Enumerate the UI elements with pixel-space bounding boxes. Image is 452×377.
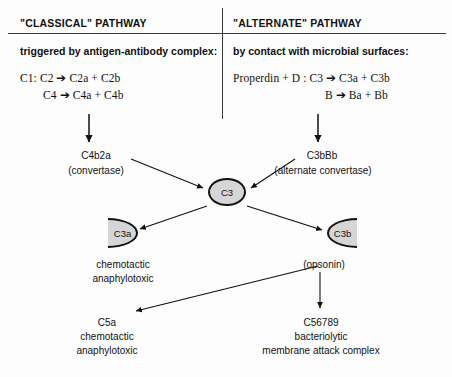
- c5a-caption-chemotactic: chemotactic: [66, 331, 148, 344]
- c3-node: C3: [208, 178, 246, 206]
- header-underline: [8, 33, 446, 34]
- classical-pathway-title: "CLASSICAL" PATHWAY: [20, 17, 147, 30]
- classical-equation-2: C4 ➔ C4a + C4b: [43, 88, 124, 102]
- mac-label: C56789: [295, 317, 347, 330]
- c3b-caption-opsonin: (opsonin): [296, 259, 352, 272]
- arrow-c3-to-c3b: [247, 206, 322, 230]
- mac-caption-bacteriolytic: bacteriolytic: [288, 331, 354, 344]
- c5a-label: C5a: [90, 317, 124, 330]
- classical-convertase-label: C4b2a: [68, 150, 124, 163]
- c3a-caption-anaphylotoxic: anaphylotoxic: [78, 273, 168, 286]
- alternate-trigger-text: by contact with microbial surfaces:: [233, 45, 409, 58]
- classical-trigger-text: triggered by antigen-antibody complex:: [20, 45, 217, 58]
- mac-caption-membrane-attack-complex: membrane attack complex: [258, 345, 384, 358]
- c3a-node: C3a: [108, 218, 138, 248]
- alternate-convertase-label: C3bBb: [296, 150, 348, 163]
- alternate-equation-2: B ➔ Ba + Bb: [325, 88, 388, 102]
- arrow-c3-to-c3a: [140, 206, 207, 229]
- arrow-classical-convertase-to-c3: [131, 159, 203, 188]
- c3b-node-label: C3b: [329, 228, 356, 239]
- c3-node-label: C3: [221, 187, 233, 198]
- alternate-equation-1: Properdin + D : C3 ➔ C3a + C3b: [233, 71, 390, 85]
- alternate-convertase-sublabel: (alternate convertase): [268, 165, 378, 178]
- c3b-node: C3b: [327, 218, 357, 248]
- classical-equation-1: C1: C2 ➔ C2a + C2b: [20, 71, 120, 85]
- complement-pathway-diagram: "CLASSICAL" PATHWAY "ALTERNATE" PATHWAY …: [0, 0, 452, 377]
- c3a-caption-chemotactic: chemotactic: [82, 259, 164, 272]
- classical-convertase-sublabel: (convertase): [60, 165, 132, 178]
- c3a-node-label: C3a: [109, 228, 136, 239]
- c5a-caption-anaphylotoxic: anaphylotoxic: [62, 345, 152, 358]
- alternate-pathway-title: "ALTERNATE" PATHWAY: [233, 17, 362, 30]
- column-divider: [222, 8, 223, 119]
